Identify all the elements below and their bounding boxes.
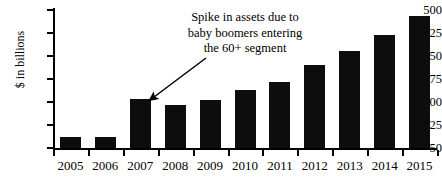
bar-2010 [235,90,256,148]
x-tick-label-2015: 2015 [400,158,440,173]
bar-2006 [95,137,116,148]
x-axis-line [53,148,437,150]
x-tick-mark [367,150,369,156]
x-tick-mark [193,150,195,156]
bar-2011 [269,82,290,148]
x-tick-mark [262,150,264,156]
bar-2013 [339,51,360,148]
y-axis-title: $ in billions [13,10,28,110]
annotation-text: Spike in assets due tobaby boomers enter… [150,10,340,57]
bar-2012 [304,65,325,148]
x-tick-mark [88,150,90,156]
x-tick-mark [228,150,230,156]
bar-2015 [409,16,430,148]
annotation-line: Spike in assets due to [150,10,340,26]
x-tick-mark [332,150,334,156]
x-tick-mark [123,150,125,156]
x-tick-mark [158,150,160,156]
annotation-line: baby boomers entering [150,26,340,42]
bar-2014 [374,35,395,148]
bar-chart: $ in billions 50125200275350425500 20052… [0,0,442,181]
annotation-arrow-icon [140,56,210,112]
x-tick-mark [402,150,404,156]
x-tick-mark [297,150,299,156]
x-tick-mark [53,150,55,156]
x-tick-mark [437,150,439,156]
bar-2005 [60,137,81,148]
annotation-line: the 60+ segment [150,41,340,57]
